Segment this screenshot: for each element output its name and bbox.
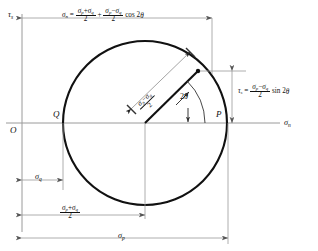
sigma-p-dimension-label: σp: [118, 232, 125, 241]
sigma-q-dimension-label: σq: [35, 173, 42, 182]
mohrs-circle-figure: τs σn = σp+σq 2 + σp−σq 2 cos 2θ τs = σp…: [0, 0, 318, 251]
sigma-n-axis-label: σn: [284, 119, 291, 128]
origin-label: O: [10, 126, 17, 135]
tau-s-equation: τs = σp−σq 2 sin 2θ: [238, 84, 289, 100]
two-theta-arc: [187, 81, 205, 123]
sigma-n-equation: σn = σp+σq 2 + σp−σq 2 cos 2θ: [62, 8, 144, 24]
diagram-canvas: [0, 0, 318, 251]
center-dimension-label: σp+σq 2: [60, 205, 80, 221]
point-p-label: P: [216, 110, 222, 119]
point-q-label: Q: [53, 110, 60, 119]
radius-dimension-tick-start: [127, 105, 136, 114]
two-theta-label: 2θ: [180, 93, 188, 101]
point-on-circle-marker: [196, 69, 200, 73]
tau-axis-label: τs: [8, 11, 13, 20]
